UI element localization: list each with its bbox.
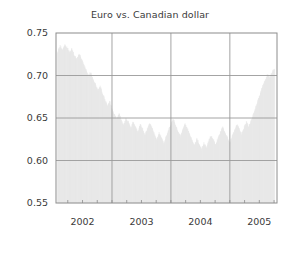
y-axis-tick-label: 0.60 <box>14 155 48 166</box>
x-axis-tick-label: 2004 <box>180 216 220 227</box>
x-axis-tick-label: 2002 <box>63 216 103 227</box>
y-axis-tick-label: 0.65 <box>14 112 48 123</box>
chart-figure: Euro vs. Canadian dollar 0.750.700.650.6… <box>0 0 300 253</box>
area-series-fill <box>58 44 275 203</box>
y-axis-tick-label: 0.70 <box>14 70 48 81</box>
y-axis-tick-label: 0.75 <box>14 27 48 38</box>
y-axis-tick-label: 0.55 <box>14 197 48 208</box>
x-axis-tick-label: 2005 <box>239 216 279 227</box>
x-axis-tick-label: 2003 <box>122 216 162 227</box>
